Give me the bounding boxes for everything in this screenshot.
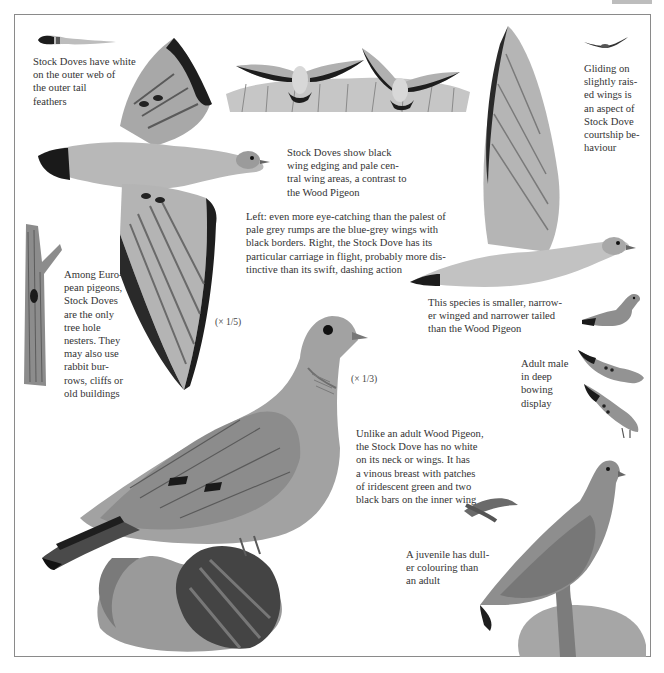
page-top-rule xyxy=(612,0,652,4)
caption-bowing-display: Adult male in deep bowing display xyxy=(521,357,568,410)
standing-dove-small-illustration xyxy=(580,290,642,332)
bowing-male-1-illustration xyxy=(576,346,646,386)
caption-flight-pair: Stock Doves show black wing edging and p… xyxy=(287,146,406,199)
bowing-male-2-illustration xyxy=(582,382,642,440)
scale-label-flying: (× 1/5) xyxy=(215,317,241,327)
caption-juvenile: A juvenile has dull- er colouring than a… xyxy=(406,548,489,588)
caption-tail-feather: Stock Doves have white on the outer web … xyxy=(33,55,136,108)
caption-gliding: Gliding on slightly rais- ed wings is an… xyxy=(584,62,640,154)
caption-tree-hole: Among Euro- pean pigeons, Stock Doves ar… xyxy=(64,268,123,400)
scale-label-perched: (× 1/3) xyxy=(351,374,377,384)
caption-rumps: Left: even more eye-catching than the pa… xyxy=(246,210,446,276)
caption-smaller: This species is smaller, narrow- er wing… xyxy=(428,296,562,336)
caption-adult: Unlike an adult Wood Pigeon, the Stock D… xyxy=(356,427,484,506)
